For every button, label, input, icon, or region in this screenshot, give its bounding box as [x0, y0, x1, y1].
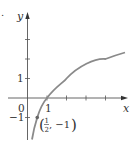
y-tick-label-neg1: −1	[9, 111, 24, 123]
paren-close: )	[71, 116, 77, 134]
log-graph: . y x 0 1 1 −1 ( 1 2 , −1 )	[0, 0, 135, 142]
point-annotation: ( 1 2 , −1 )	[39, 116, 77, 134]
y-axis-arrow-icon	[25, 12, 29, 19]
x-tick-label-1: 1	[45, 102, 52, 114]
bullet-mark: .	[1, 7, 4, 18]
point-coordinate-rest: , −1	[49, 119, 70, 130]
y-tick-label-1: 1	[17, 72, 24, 84]
x-axis-arrow-icon	[121, 96, 128, 100]
x-axis-label: x	[123, 102, 130, 115]
y-axis-label: y	[16, 10, 24, 23]
